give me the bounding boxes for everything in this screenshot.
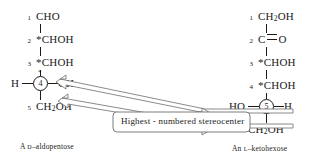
right-row-6-group-tail: OH	[268, 123, 284, 135]
right-row-4-number: 4	[244, 83, 253, 91]
right-stereocenter-circle: 5	[259, 99, 274, 114]
right-row-1-group: CH2OH	[258, 10, 294, 23]
left-row-5-number: 5	[22, 104, 31, 112]
callout-label: Highest - numbered stereocenter	[121, 116, 244, 126]
right-row-4: 4 *CHOH	[244, 79, 296, 91]
left-row-5: 5 CH2OH	[22, 100, 72, 113]
right-row-2: 2 CO	[244, 33, 287, 45]
right-row-3-group: *CHOH	[258, 56, 296, 68]
right-substituent-h: H	[284, 100, 292, 112]
left-bond-2-3	[40, 47, 41, 56]
left-row-3: 3 *CHOH	[22, 56, 74, 68]
left-stereocenter-circle: 4	[33, 76, 48, 91]
left-bond-c4-oh	[48, 83, 58, 84]
left-row-2-group: *CHOH	[36, 33, 74, 45]
right-bond-5-6	[266, 114, 267, 123]
right-row-3: 3 *CHOH	[244, 56, 296, 68]
left-bond-1-2	[40, 24, 41, 33]
right-bond-c5-h	[274, 106, 284, 107]
left-substituent-oh: OH	[58, 77, 74, 89]
right-bond-2-3	[266, 47, 267, 56]
right-structure-caption: An L–ketohexose	[232, 144, 287, 153]
right-row-6: CH2OH	[248, 123, 284, 136]
right-row-2-group: CO	[258, 33, 287, 45]
left-structure-caption: A D–aldopentose	[20, 142, 74, 151]
right-row-6-group: CH2OH	[248, 123, 284, 136]
right-row-3-number: 3	[244, 60, 253, 68]
right-row-2-number: 2	[244, 37, 253, 45]
left-substituent-h: H	[11, 77, 19, 89]
left-row-3-group: *CHOH	[36, 56, 74, 68]
double-bond-icon	[267, 34, 277, 40]
right-caption-suffix: –ketohexose	[248, 144, 288, 153]
right-row-2-group-tail: O	[279, 33, 287, 45]
left-row-5-group-head: CH	[36, 100, 52, 112]
right-row-1: 1 CH2OH	[244, 10, 294, 23]
right-row-1-group-head: CH	[258, 10, 274, 22]
left-row-1-number: 1	[22, 14, 31, 22]
left-row-1: 1 CHO	[22, 10, 60, 22]
left-bond-4-5	[40, 91, 41, 100]
right-row-6-group-head: CH	[248, 123, 264, 135]
figure-canvas: 1 CHO 2 *CHOH 3 *CHOH * 4 H OH 5 CH2OH	[0, 0, 315, 161]
left-row-2: 2 *CHOH	[22, 33, 74, 45]
left-bond-c4-h	[22, 83, 33, 84]
left-row-3-number: 3	[22, 60, 31, 68]
right-caption-prefix: An	[232, 144, 244, 153]
left-row-5-group-tail: OH	[56, 100, 72, 112]
right-row-4-group: *CHOH	[258, 79, 296, 91]
right-bond-3-4	[266, 70, 267, 79]
left-caption-suffix: –aldopentose	[32, 142, 74, 151]
right-bond-1-2	[266, 24, 267, 33]
right-substituent-ho: HO	[229, 100, 245, 112]
right-bond-c5-ho	[248, 106, 259, 107]
left-row-5-group: CH2OH	[36, 100, 72, 113]
left-row-2-number: 2	[22, 37, 31, 45]
right-row-1-group-tail: OH	[278, 10, 294, 22]
left-stereocenter-star: *	[38, 69, 42, 76]
right-row-2-group-head: C	[258, 33, 266, 45]
left-row-1-group: CHO	[36, 10, 60, 22]
right-row-1-number: 1	[244, 14, 253, 22]
